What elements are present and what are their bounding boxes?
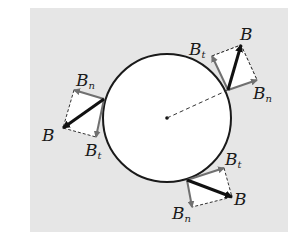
b-label: B: [233, 189, 247, 209]
field-diagram: B Bt Bn Bn B Bt Bt B Bn: [0, 0, 303, 241]
b-label: B: [41, 125, 55, 145]
b-label: B: [239, 24, 253, 44]
